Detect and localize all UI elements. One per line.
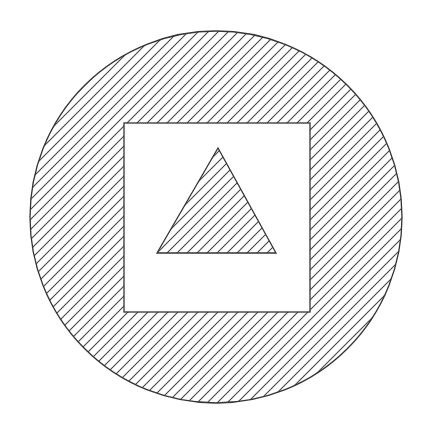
nested-shapes-diagram <box>0 0 432 430</box>
